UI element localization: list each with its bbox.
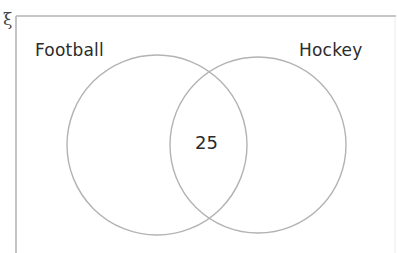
- set-label-football: Football: [35, 40, 104, 60]
- intersection-value: 25: [195, 133, 218, 153]
- set-circle-football: [67, 55, 247, 235]
- set-label-hockey: Hockey: [299, 40, 363, 60]
- universal-set-symbol: ξ: [3, 9, 12, 29]
- venn-diagram: [0, 0, 397, 253]
